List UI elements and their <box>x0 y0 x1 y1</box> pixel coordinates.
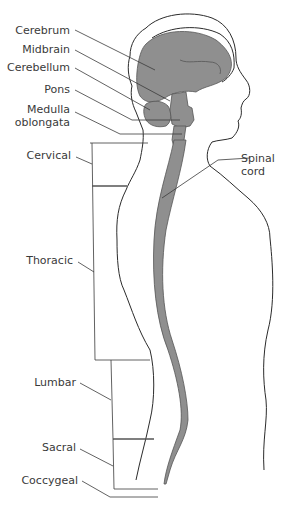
label-medulla-line2: oblongata <box>6 116 70 129</box>
label-pons: Pons <box>6 83 70 96</box>
label-spinal-cord-line1: Spinal <box>241 152 275 165</box>
label-spinal-cord-line2: cord <box>241 165 265 178</box>
cerebrum <box>137 31 232 102</box>
label-cervical: Cervical <box>4 149 71 162</box>
label-sacral: Sacral <box>4 441 76 454</box>
leader-sacral <box>80 449 113 466</box>
label-midbrain: Midbrain <box>6 43 70 56</box>
leader-lumbar <box>80 383 111 400</box>
cerebellum <box>144 101 171 127</box>
label-medulla-line1: Medulla <box>6 103 70 116</box>
label-coccygeal: Coccygeal <box>4 474 78 487</box>
leader-cervical <box>76 157 92 164</box>
label-thoracic: Thoracic <box>4 254 73 267</box>
leader-thoracic <box>78 262 94 272</box>
label-cerebellum: Cerebellum <box>6 61 70 74</box>
label-lumbar: Lumbar <box>4 376 76 389</box>
midbrain-pons <box>170 92 194 128</box>
label-cerebrum: Cerebrum <box>6 24 70 37</box>
